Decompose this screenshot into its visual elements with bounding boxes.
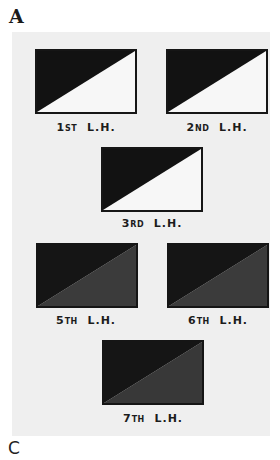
unit-abbrev: L.H. <box>87 314 116 327</box>
ordinal-number: 5 <box>56 314 65 327</box>
unit-abbrev: L.H. <box>154 412 183 425</box>
flag-label-5th: 5TH L.H. <box>21 315 151 326</box>
unit-abbrev: L.H. <box>154 217 183 230</box>
diagonal-split-flag-icon <box>103 149 201 210</box>
flag-7th-lh <box>102 340 204 405</box>
ordinal-suffix: TH <box>132 415 145 424</box>
unit-abbrev: L.H. <box>219 314 248 327</box>
unit-abbrev: L.H. <box>219 121 248 134</box>
flag-label-1st: 1ST L.H. <box>21 122 151 133</box>
ordinal-suffix: TH <box>65 317 78 326</box>
flag-5th-lh <box>36 243 138 308</box>
flag-2nd-lh <box>166 49 268 114</box>
ordinal-suffix: ND <box>195 124 209 133</box>
diagonal-split-flag-icon <box>169 245 267 306</box>
figure-label-c: C <box>8 440 20 457</box>
diagonal-split-flag-icon <box>38 245 136 306</box>
ordinal-number: 3 <box>122 217 131 230</box>
ordinal-suffix: TH <box>197 317 210 326</box>
ordinal-number: 6 <box>188 314 197 327</box>
ordinal-suffix: RD <box>130 220 144 229</box>
flag-label-6th: 6TH L.H. <box>153 315 280 326</box>
ordinal-number: 1 <box>56 121 65 134</box>
flag-1st-lh <box>35 49 137 114</box>
diagonal-split-flag-icon <box>168 51 266 112</box>
ordinal-suffix: ST <box>65 124 77 133</box>
flag-3rd-lh <box>101 147 203 212</box>
flag-label-7th: 7TH L.H. <box>88 413 218 424</box>
diagonal-split-flag-icon <box>37 51 135 112</box>
figure-label-a: A <box>9 7 24 26</box>
ordinal-number: 7 <box>123 412 132 425</box>
ordinal-number: 2 <box>186 121 195 134</box>
flag-label-2nd: 2ND L.H. <box>152 122 280 133</box>
flag-label-3rd: 3RD L.H. <box>87 218 217 229</box>
flag-6th-lh <box>167 243 269 308</box>
unit-abbrev: L.H. <box>87 121 116 134</box>
diagonal-split-flag-icon <box>104 342 202 403</box>
